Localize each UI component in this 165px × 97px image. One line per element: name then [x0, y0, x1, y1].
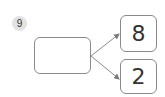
part-value-bottom: 2: [132, 64, 146, 89]
part-box-bottom: 2: [120, 59, 157, 94]
arrow-to-bottom: [91, 56, 119, 79]
part-box-top: 8: [120, 15, 157, 52]
part-value-top: 8: [132, 21, 146, 46]
arrow-to-top: [91, 34, 119, 56]
